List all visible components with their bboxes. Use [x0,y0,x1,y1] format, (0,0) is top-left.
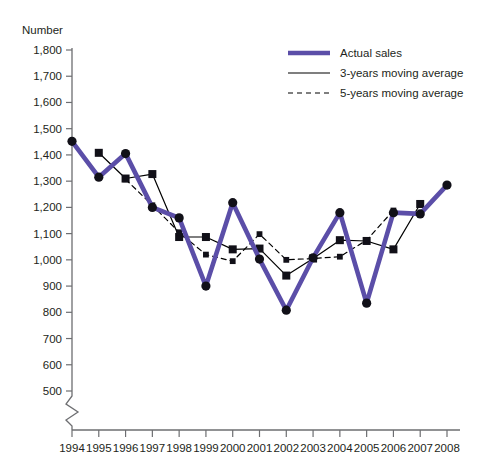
data-point [335,208,344,217]
data-point [282,272,290,280]
y-axis-title: Number [22,24,63,36]
data-point [148,170,156,178]
data-point [95,149,103,157]
x-tick-label: 2004 [327,442,353,454]
chart-legend: Actual sales 3-years moving average 5-ye… [288,47,463,99]
x-tick-label: 2000 [220,442,246,454]
data-point [94,173,103,182]
y-tick-label: 1,700 [33,70,62,82]
data-point [123,176,129,182]
data-point [308,253,317,262]
data-point [67,137,76,146]
y-tick-label: 1,600 [33,96,62,108]
x-tick-label: 1999 [193,442,219,454]
data-point [364,237,370,243]
data-point [121,149,130,158]
chart-container: Number 1,8001,7001,6001,5001,4001,3001,2… [0,0,491,476]
legend-label-actual-sales: Actual sales [340,47,402,59]
data-point [389,208,398,217]
legend-label-3-year-moving-average: 3-years moving average [340,67,463,79]
data-point [228,198,237,207]
legend-label-5-year-moving-average: 5-years moving average [340,87,463,99]
data-point [230,258,236,264]
data-point [176,229,182,235]
data-point [201,281,210,290]
data-point [442,180,451,189]
data-point [203,252,209,258]
data-point [416,200,424,208]
x-tick-label: 2001 [247,442,273,454]
series-line [72,141,447,310]
data-point [336,236,344,244]
data-point [175,213,184,222]
data-point [416,209,425,218]
data-point [255,254,264,263]
x-tick-label: 2006 [381,442,407,454]
y-tick-label: 1,200 [33,201,62,213]
x-axis-ticks: 1994199519961997199819992000200120022003… [59,430,460,454]
data-point [362,299,371,308]
data-point [202,233,210,241]
y-tick-label: 1,800 [33,44,62,56]
y-tick-label: 1,000 [33,254,62,266]
y-tick-label: 700 [43,333,62,345]
x-tick-label: 1996 [113,442,139,454]
x-tick-label: 1997 [140,442,166,454]
x-tick-label: 2008 [434,442,460,454]
y-tick-label: 1,400 [33,149,62,161]
data-point [389,245,397,253]
x-tick-label: 2002 [273,442,299,454]
x-tick-label: 1995 [86,442,112,454]
x-tick-label: 2007 [407,442,433,454]
y-tick-label: 1,500 [33,123,62,135]
y-tick-label: 1,300 [33,175,62,187]
data-point [337,254,343,260]
y-tick-label: 800 [43,306,62,318]
x-tick-label: 2003 [300,442,326,454]
y-tick-label: 900 [43,280,62,292]
series-actual-sales [67,137,451,315]
y-tick-label: 1,100 [33,228,62,240]
y-axis-line [66,48,78,430]
y-tick-label: 500 [43,385,62,397]
data-point [282,306,291,315]
x-tick-label: 2005 [354,442,380,454]
data-point [257,231,263,237]
x-tick-label: 1998 [166,442,192,454]
y-tick-label: 600 [43,359,62,371]
y-axis-ticks: 1,8001,7001,6001,5001,4001,3001,2001,100… [33,44,72,397]
y-axis-title-text: Number [22,24,63,36]
line-chart: Number 1,8001,7001,6001,5001,4001,3001,2… [0,0,491,476]
data-point [283,257,289,263]
data-point [229,245,237,253]
data-point [148,203,157,212]
series-layer [67,137,451,315]
x-tick-label: 1994 [59,442,85,454]
